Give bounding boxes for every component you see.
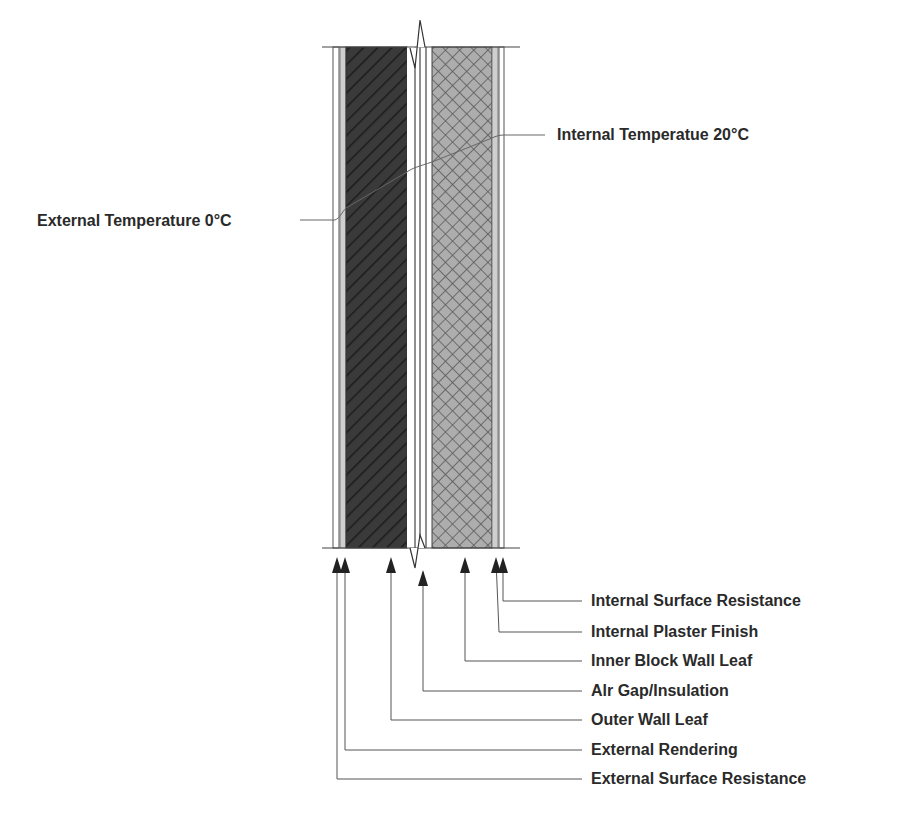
layer-label-internal-plaster-finish: Internal Plaster Finish: [591, 623, 758, 641]
layer-label-inner-block-wall-leaf: Inner Block Wall Leaf: [591, 652, 752, 670]
air-gap-layer: [407, 47, 432, 548]
layer-label-air-gap-insulation: Alr Gap/Insulation: [591, 682, 729, 700]
layer-label-internal-surface-resistance: Internal Surface Resistance: [591, 592, 801, 610]
layer-label-external-rendering: External Rendering: [591, 741, 738, 759]
arrow-inner-block-icon: [460, 557, 470, 573]
internal-surface-resistance-layer: [499, 47, 504, 548]
layer-label-outer-wall-leaf: Outer Wall Leaf: [591, 711, 708, 729]
arrow-external-rendering-icon: [340, 557, 350, 573]
arrow-internal-plaster-icon: [491, 557, 501, 573]
external-rendering-layer: [340, 47, 346, 548]
inner-block-wall-leaf-layer: [432, 47, 492, 548]
wall-section-diagram: [0, 0, 903, 820]
arrow-external-surface-icon: [332, 557, 342, 573]
outer-wall-leaf-layer: [346, 47, 407, 548]
leader-lines: [337, 560, 582, 779]
internal-plaster-layer: [492, 47, 498, 548]
arrow-outer-leaf-icon: [386, 557, 396, 573]
external-surface-resistance-layer: [333, 47, 339, 548]
arrowheads: [332, 557, 508, 586]
external-temperature-label: External Temperature 0°C: [37, 212, 232, 230]
arrow-air-gap-icon: [418, 570, 428, 586]
internal-temperature-label: Internal Temperatue 20°C: [557, 126, 749, 144]
layer-label-external-surface-resistance: External Surface Resistance: [591, 770, 806, 788]
